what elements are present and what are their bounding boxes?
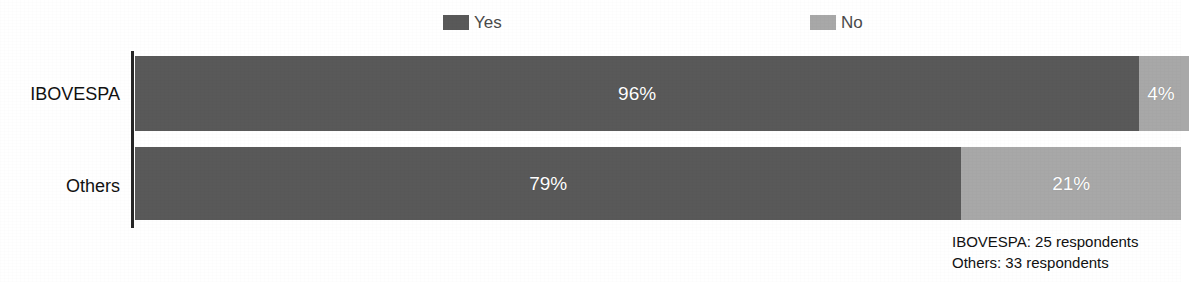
category-label-others: Others: [0, 177, 120, 195]
footnote-ibovespa: IBOVESPA: 25 respondents: [952, 231, 1139, 252]
bar-value-label: 79%: [529, 174, 567, 193]
legend-label-no: No: [841, 14, 863, 31]
y-axis-line: [131, 51, 134, 228]
category-label-ibovespa: IBOVESPA: [0, 85, 120, 103]
legend-swatch-yes-icon: [443, 15, 469, 30]
bar-segment-ibovespa-no[interactable]: 4%: [1139, 56, 1189, 131]
chart-legend: Yes No: [0, 9, 1181, 35]
bar-row-others: 79% 21%: [135, 147, 1181, 220]
footnote-others: Others: 33 respondents: [952, 252, 1139, 273]
bar-value-label: 96%: [618, 84, 656, 103]
bar-value-label: 4%: [1147, 84, 1174, 103]
bar-segment-others-yes[interactable]: 79%: [135, 147, 961, 220]
bar-value-label: 21%: [1052, 174, 1090, 193]
legend-label-yes: Yes: [474, 14, 502, 31]
legend-item-yes[interactable]: Yes: [443, 9, 502, 35]
legend-item-no[interactable]: No: [810, 9, 863, 35]
bar-segment-ibovespa-yes[interactable]: 96%: [135, 56, 1139, 131]
chart-footnotes: IBOVESPA: 25 respondents Others: 33 resp…: [952, 231, 1139, 273]
bar-row-ibovespa: 96% 4%: [135, 56, 1181, 131]
legend-swatch-no-icon: [810, 15, 836, 30]
bar-segment-others-no[interactable]: 21%: [961, 147, 1181, 220]
